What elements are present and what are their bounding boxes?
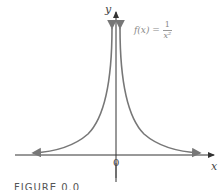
graph-canvas: [0, 0, 222, 190]
origin-label: 0: [113, 157, 119, 168]
curve-left-branch: [33, 28, 112, 153]
figure-caption: FIGURE 0.0: [14, 182, 80, 190]
curve-right-branch: [120, 28, 200, 153]
function-fraction: 1 x²: [163, 20, 172, 41]
function-denominator: x²: [163, 31, 172, 41]
function-annotation: f(x) = 1 x²: [134, 20, 172, 41]
x-axis-label: x: [211, 160, 217, 173]
function-name: f(x) =: [134, 25, 160, 35]
function-numerator: 1: [163, 20, 172, 31]
y-axis-label: y: [105, 3, 111, 16]
